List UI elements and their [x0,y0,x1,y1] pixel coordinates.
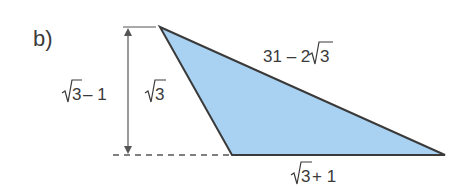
hypotenuse-prefix: 31 – 2 [263,47,310,66]
part-label: b) [33,26,53,51]
left-side-label: 3 [145,80,166,104]
left-side-radicand: 3 [155,85,164,104]
height-label: 3 – 1 [62,80,107,104]
base-suffix: + 1 [312,167,336,186]
triangle-figure: b) 3 – 1 3 31 – 2 3 3 + 1 [0,0,473,186]
height-radicand: 3 [72,85,81,104]
hypotenuse-radicand: 3 [320,47,329,66]
arrow-down-icon [124,146,132,154]
base-label: 3 + 1 [291,162,336,186]
arrow-up-icon [124,28,132,36]
base-radicand: 3 [301,167,310,186]
hypotenuse-label: 31 – 2 3 [263,42,333,66]
height-suffix: – 1 [83,85,107,104]
